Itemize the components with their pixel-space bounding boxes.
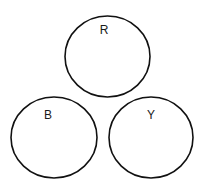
diagram-canvas: R B Y bbox=[0, 0, 205, 196]
circle-b-label: B bbox=[44, 108, 52, 122]
circle-y: Y bbox=[109, 97, 193, 178]
circle-r: R bbox=[65, 16, 150, 97]
circle-b-shape bbox=[11, 97, 97, 178]
three-circles-diagram: R B Y bbox=[0, 0, 205, 196]
circle-r-label: R bbox=[100, 23, 109, 37]
circle-b: B bbox=[11, 97, 97, 178]
circle-y-label: Y bbox=[147, 108, 155, 122]
